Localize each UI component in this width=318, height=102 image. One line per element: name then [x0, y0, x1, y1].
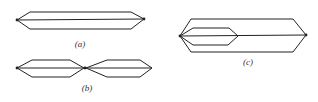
figure-a-label: (a): [75, 39, 86, 49]
vertex-dot: [84, 67, 87, 70]
vertex-dot: [143, 18, 146, 21]
vertex-dot: [179, 35, 182, 38]
axis-line: [180, 35, 306, 36]
figure-c-label: (c): [243, 57, 253, 67]
diagram-canvas: [0, 0, 318, 102]
vertex-dot: [16, 67, 19, 70]
figure-a: [16, 12, 146, 29]
figure-c: [179, 19, 308, 52]
hexagon-outline-2: [180, 28, 238, 45]
hexagon-outline-1: [17, 12, 144, 29]
figure-b-label: (b): [82, 83, 93, 93]
axis-line: [17, 19, 144, 20]
vertex-dot: [305, 34, 308, 37]
vertex-dot: [16, 19, 19, 22]
figure-b: [16, 60, 152, 77]
